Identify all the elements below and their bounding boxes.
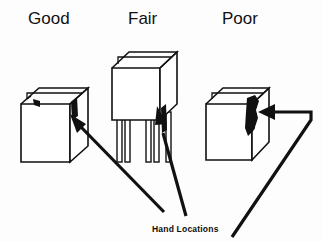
heading-good: Good [28, 9, 70, 28]
fair-stand-leg-3 [146, 118, 151, 162]
heading-fair: Fair [128, 9, 158, 28]
good-box-front-face [21, 104, 70, 162]
heading-poor: Poor [222, 9, 258, 28]
fair-stand-leg-1 [117, 118, 122, 162]
fair-stand-leg-2 [125, 118, 130, 162]
poor-box-front-face [206, 104, 252, 160]
fair-box-front-face [112, 68, 160, 120]
figure-root: Good Fair Poor [0, 0, 323, 242]
caption-hand-locations: Hand Locations [152, 224, 219, 234]
hand-locations-diagram: Good Fair Poor [0, 0, 323, 242]
